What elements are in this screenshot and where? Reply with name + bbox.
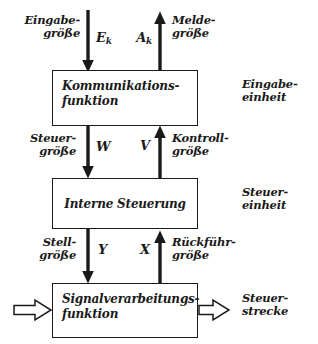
block-diagram: Eingabe- größe Ek Ak Melde- größe Steuer… [0,0,318,344]
arrow-stellgroesse [82,229,94,284]
signal-label-eingabegroesse: Eingabe- größe [6,14,80,40]
signal-label-meldegroesse: Melde- größe [172,14,256,40]
signal-symbol-rueckfuehrgroesse: X [128,243,150,258]
block-label-kommunikationsfunktion: Kommunikations- funktion [62,79,179,109]
arrow-meldegroesse [154,12,166,71]
unit-label-steuerstrecke: Steuer- strecke [242,292,318,318]
block-signalverarbeitungsfunktion[interactable]: Signalverarbeitungs- funktion [52,283,198,338]
signal-label-rueckfuehrgroesse: Rückführ- größe [172,236,270,262]
arrow-kontrollgroesse [154,126,166,179]
signal-symbol-steuergroesse: W [96,140,118,155]
arrow-rueckfuehrgroesse [154,231,166,284]
symbol-subscript: k [106,36,112,46]
symbol-subscript: k [146,36,152,46]
signal-label-steuergroesse: Steuer- größe [2,132,76,158]
arrow-eingabegroesse [82,10,94,73]
block-interne-steuerung[interactable]: Interne Steuerung [52,178,198,229]
unit-label-eingabeeinheit: Eingabe- einheit [242,78,318,104]
block-kommunikationsfunktion[interactable]: Kommunikations- funktion [52,70,198,126]
signal-label-kontrollgroesse: Kontroll- größe [172,132,264,158]
unit-label-steuereinheit: Steuer- einheit [242,186,318,212]
signal-symbol-kontrollgroesse: V [128,139,150,154]
open-arrow-right-icon-inlet [14,300,51,320]
symbol-letter: A [136,30,146,45]
signal-symbol-stellgroesse: Y [98,243,120,258]
block-label-signalverarbeitungsfunktion: Signalverarbeitungs- funktion [62,292,199,322]
block-label-interne-steuerung: Interne Steuerung [53,196,197,211]
symbol-letter: E [96,30,106,45]
signal-label-stellgroesse: Stell- größe [2,236,76,262]
signal-symbol-meldegroesse: Ak [122,16,152,47]
arrow-steuergroesse [82,126,94,179]
open-arrow-right-icon-outlet [199,300,229,320]
